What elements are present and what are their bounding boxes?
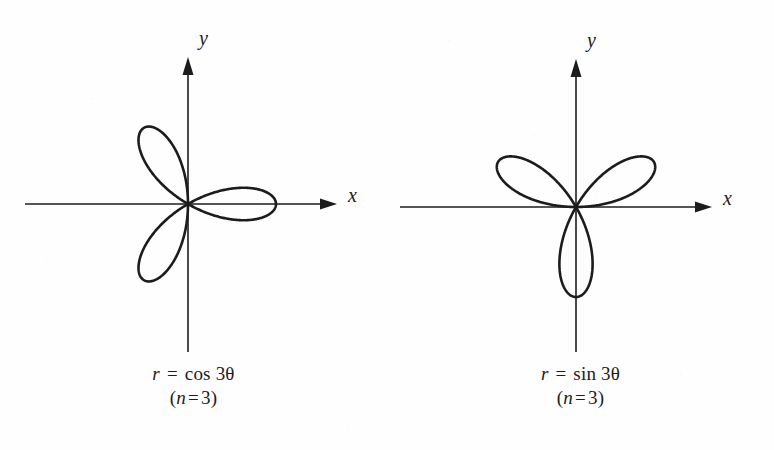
y-axis-label: y (199, 28, 208, 48)
polar-plot-sin-3theta (387, 0, 774, 360)
caption-equation-lhs: r (152, 363, 160, 384)
y-axis-arrowhead-icon (571, 59, 582, 77)
caption-sin-3theta: r = sin 3θ (n=3) (387, 362, 774, 411)
caption-petals-value: 3 (201, 387, 211, 408)
y-axis-arrowhead-icon (183, 57, 194, 75)
caption-equation-rhs: cos 3θ (185, 363, 235, 384)
x-axis-arrowhead-icon (320, 199, 337, 210)
caption-petals-line: (n=3) (387, 386, 774, 410)
caption-petals-variable: n (176, 387, 186, 408)
caption-petals-operator: = (573, 387, 588, 408)
caption-equation-operator: = (553, 363, 568, 384)
figure-panel-sin-3theta: y x r = sin 3θ (n=3) (387, 0, 774, 450)
caption-equation-line: r = cos 3θ (0, 362, 387, 386)
caption-petals-suffix: ) (598, 387, 605, 408)
x-axis-label: x (723, 188, 732, 208)
caption-equation-rhs: sin 3θ (573, 363, 620, 384)
figure-sheet: y x r = cos 3θ (n=3) y (0, 0, 774, 450)
caption-equation-line: r = sin 3θ (387, 362, 774, 386)
y-axis-label: y (587, 30, 596, 50)
x-axis-label: x (348, 185, 357, 205)
caption-petals-suffix: ) (211, 387, 218, 408)
x-axis-arrowhead-icon (695, 202, 712, 213)
caption-equation-lhs: r (541, 363, 549, 384)
caption-equation-operator: = (165, 363, 180, 384)
caption-petals-operator: = (186, 387, 201, 408)
polar-plot-cos-3theta (0, 0, 387, 360)
caption-cos-3theta: r = cos 3θ (n=3) (0, 362, 387, 411)
caption-petals-variable: n (563, 387, 573, 408)
caption-petals-line: (n=3) (0, 386, 387, 410)
caption-petals-value: 3 (588, 387, 598, 408)
figure-panel-cos-3theta: y x r = cos 3θ (n=3) (0, 0, 387, 450)
